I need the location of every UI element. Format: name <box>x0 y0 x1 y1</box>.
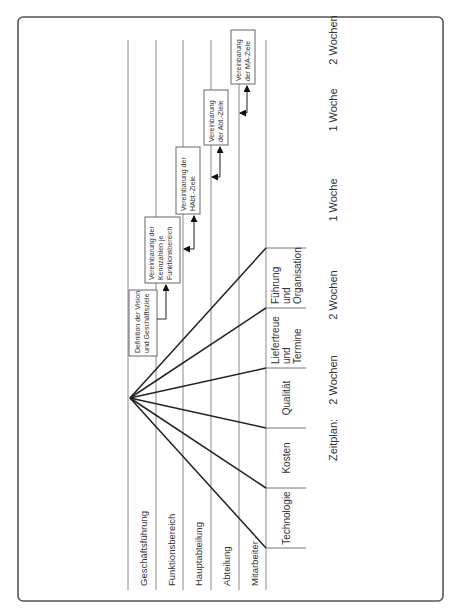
level-label: Geschäftsführung <box>138 511 149 586</box>
svg-text:der MA-Ziele: der MA-Ziele <box>244 41 251 81</box>
category-kosten: Kosten <box>281 442 292 473</box>
schedule-duration: 2 Wochen <box>327 15 339 64</box>
schedule-duration: 2 Wochen <box>327 355 339 404</box>
outer-frame <box>18 17 443 601</box>
step-abt: Vereinbarung der Abt.-Ziele <box>204 90 228 145</box>
goal-cascade-diagram: Geschäftsführung Funktionsbereich Haupta… <box>0 0 457 613</box>
svg-text:und: und <box>281 347 292 364</box>
svg-text:Vereinbarung: Vereinbarung <box>235 39 243 81</box>
svg-text:Funktionsbereich: Funktionsbereich <box>166 227 173 280</box>
schedule-label: Zeitplan: <box>327 419 339 461</box>
svg-text:Führung: Führung <box>270 267 281 304</box>
svg-text:der Abt.-Ziele: der Abt.-Ziele <box>217 100 224 142</box>
schedule: Zeitplan: 2 Wochen 2 Wochen 1 Woche 1 Wo… <box>327 15 339 461</box>
svg-text:und Geschäftsziele: und Geschäftsziele <box>143 293 150 353</box>
step-vision: Definition der Vision und Geschäftsziele <box>129 290 157 356</box>
step-ma: Vereinbarung der MA-Ziele <box>231 30 255 84</box>
svg-text:und: und <box>281 287 292 304</box>
level-label: Hauptabteilung <box>193 522 204 586</box>
svg-text:Vereinbarung: Vereinbarung <box>208 100 216 142</box>
svg-text:Organisation: Organisation <box>292 247 303 304</box>
category-technologie: Technologie <box>281 491 292 545</box>
schedule-duration: 2 Wochen <box>327 270 339 319</box>
svg-text:Kennzahlen je: Kennzahlen je <box>157 236 165 280</box>
svg-text:Vereinbarung der: Vereinbarung der <box>180 157 188 211</box>
step-habt: Vereinbarung der HAbt.-Ziele <box>176 147 200 214</box>
svg-text:Liefertreue: Liefertreue <box>270 316 281 364</box>
category-liefertreue: Liefertreue und Termine <box>270 316 303 364</box>
category-labels: Technologie Kosten Qualität Liefertreue … <box>270 247 303 544</box>
category-fuehrung: Führung und Organisation <box>270 247 303 304</box>
svg-text:Definition der Vision: Definition der Vision <box>134 291 141 353</box>
svg-text:HAbt.-Ziele: HAbt.-Ziele <box>189 176 196 211</box>
svg-text:Termine: Termine <box>292 328 303 364</box>
arrow-up-icon <box>157 285 166 319</box>
schedule-duration: 1 Woche <box>327 178 339 221</box>
level-label: Mitarbeiter <box>249 541 260 586</box>
level-label: Abteilung <box>221 546 232 586</box>
svg-text:Vereinbarung der: Vereinbarung der <box>148 226 156 280</box>
category-qualitaet: Qualität <box>281 381 292 416</box>
schedule-duration: 1 Woche <box>327 88 339 131</box>
level-label: Funktionsbereich <box>166 514 177 586</box>
step-kennzahlen: Vereinbarung der Kennzahlen je Funktions… <box>145 217 180 283</box>
